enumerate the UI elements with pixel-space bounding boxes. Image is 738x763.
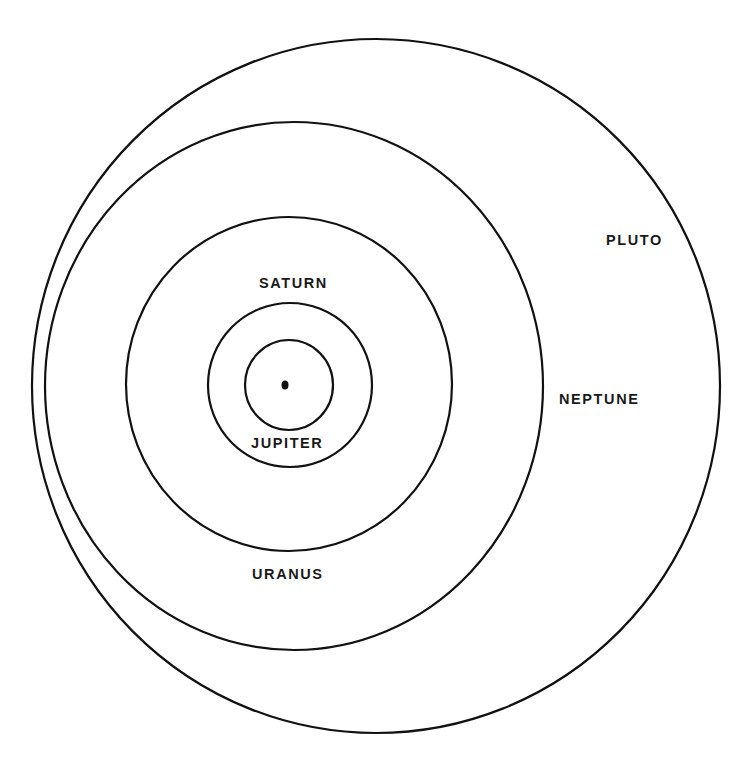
label-saturn: SATURN bbox=[259, 276, 328, 291]
label-neptune: NEPTUNE bbox=[559, 392, 640, 407]
label-pluto: PLUTO bbox=[606, 233, 663, 248]
label-uranus: URANUS bbox=[252, 567, 324, 582]
label-jupiter: JUPITER bbox=[251, 436, 323, 451]
orbit-uranus bbox=[126, 217, 452, 551]
orbit-diagram bbox=[0, 0, 738, 763]
sun-dot bbox=[282, 381, 289, 390]
orbit-pluto bbox=[32, 39, 720, 733]
orbit-jupiter bbox=[245, 340, 333, 430]
